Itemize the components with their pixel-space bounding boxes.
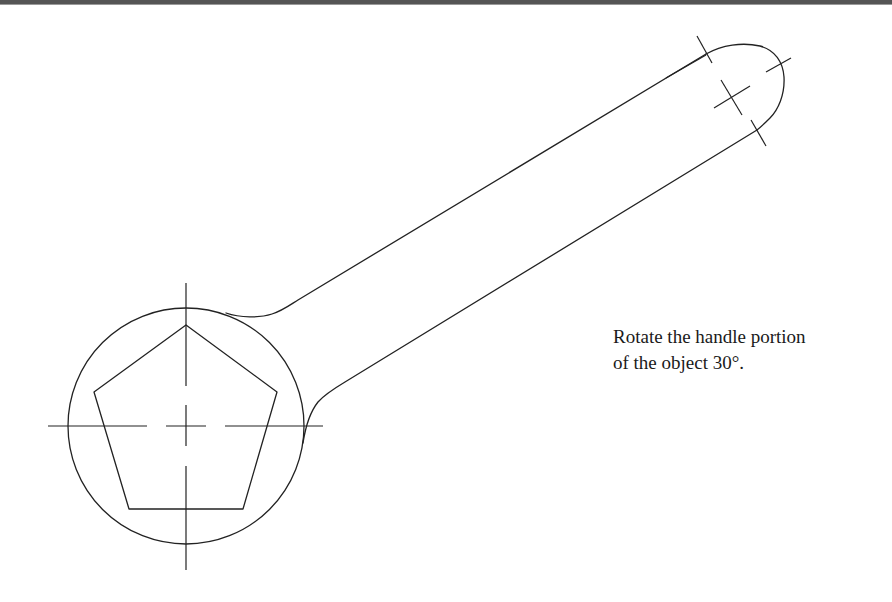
instruction-line-1: Rotate the handle portion: [613, 324, 883, 350]
wrench-drawing: [0, 0, 892, 602]
instruction-text: Rotate the handle portion of the object …: [613, 324, 883, 376]
handle-end-arc: [706, 44, 784, 130]
head-centerlines: [48, 283, 323, 570]
handle-lower-edge: [303, 130, 757, 443]
instruction-line-2: of the object 30°.: [613, 350, 883, 376]
handle-upper-edge: [226, 54, 706, 317]
